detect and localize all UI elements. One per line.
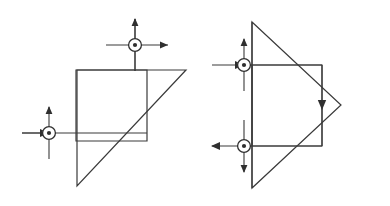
canvas-background — [0, 0, 390, 206]
figure-root — [0, 0, 390, 206]
dot-in-circle-center-icon — [133, 43, 137, 47]
dot-in-circle-center-icon — [47, 131, 51, 135]
dot-in-circle-center-icon — [242, 63, 246, 67]
diagram-canvas — [0, 0, 390, 206]
dot-in-circle-center-icon — [242, 144, 246, 148]
